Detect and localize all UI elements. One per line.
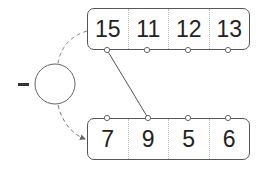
bottom-node-dot	[104, 115, 109, 120]
bottom-node-dot	[145, 115, 150, 120]
bottom-node-dot	[225, 115, 230, 120]
top-node-dot	[185, 47, 190, 52]
bottom-node-dot	[185, 115, 190, 120]
top-node-dot	[144, 47, 149, 52]
node-dots	[0, 0, 266, 169]
top-node-dot	[104, 47, 109, 52]
top-node-dot	[225, 47, 230, 52]
